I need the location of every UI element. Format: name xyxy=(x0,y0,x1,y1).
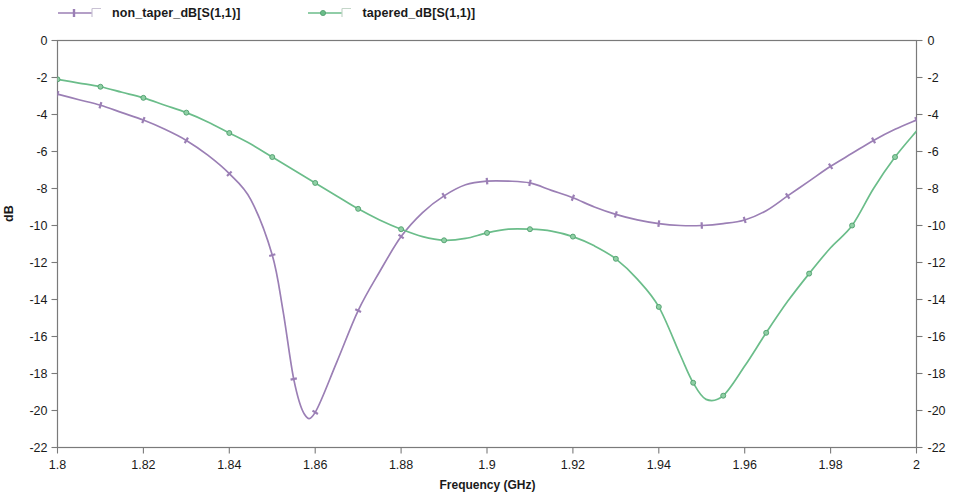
x-tick-label: 1.8 xyxy=(49,458,66,472)
y2-tick-label: -8 xyxy=(928,182,939,196)
series-marker xyxy=(356,206,361,211)
x-tick-label: 1.92 xyxy=(561,458,585,472)
x-tick-label: 1.82 xyxy=(131,458,155,472)
y-tick-label: -12 xyxy=(29,256,47,270)
y2-tick-label: -14 xyxy=(928,293,946,307)
series-marker xyxy=(291,378,297,379)
y2-tick-label: -10 xyxy=(928,219,946,233)
plot-frame xyxy=(58,41,917,448)
y2-tick-label: -16 xyxy=(928,330,946,344)
series-marker xyxy=(141,95,146,100)
series-marker xyxy=(850,223,855,228)
series-marker xyxy=(313,180,318,185)
y2-tick-label: -12 xyxy=(928,256,946,270)
y-tick-label: -14 xyxy=(29,293,47,307)
x-tick-label: 1.98 xyxy=(818,458,842,472)
y2-tick-label: -2 xyxy=(928,71,939,85)
y2-tick-label: -6 xyxy=(928,145,939,159)
series-marker xyxy=(613,256,618,261)
series-marker xyxy=(487,178,488,184)
x-tick-label: 1.96 xyxy=(733,458,757,472)
series-marker xyxy=(691,380,696,385)
series-marker xyxy=(527,227,532,232)
y2-tick-label: 0 xyxy=(928,34,935,48)
series-marker xyxy=(399,227,404,232)
x-tick-label: 1.86 xyxy=(303,458,327,472)
chart-container: non_taper_dB[S(1,1)] tapered_dB[S(1,1)] … xyxy=(0,0,975,497)
y-tick-label: -8 xyxy=(36,182,47,196)
x-tick-label: 1.84 xyxy=(217,458,241,472)
series-marker xyxy=(570,234,575,239)
series-marker xyxy=(807,271,812,276)
y2-tick-label: -4 xyxy=(928,108,939,122)
x-tick-label: 1.94 xyxy=(647,458,671,472)
y-tick-label: -16 xyxy=(29,330,47,344)
plot-area: 00-2-2-4-4-6-6-8-8-10-10-12-12-14-14-16-… xyxy=(0,0,975,497)
series-marker xyxy=(485,230,490,235)
x-tick-label: 1.88 xyxy=(389,458,413,472)
x-tick-label: 1.9 xyxy=(478,458,495,472)
y-tick-label: -2 xyxy=(36,71,47,85)
series-marker xyxy=(656,304,661,309)
series-marker xyxy=(721,393,726,398)
y2-tick-label: -18 xyxy=(928,367,946,381)
series-marker xyxy=(529,180,530,186)
x-tick-label: 2 xyxy=(913,458,920,472)
series-marker xyxy=(270,155,275,160)
y-tick-label: -22 xyxy=(29,441,47,455)
y2-tick-label: -20 xyxy=(928,404,946,418)
series-marker xyxy=(227,131,232,136)
y-tick-label: -4 xyxy=(36,108,47,122)
series-marker xyxy=(184,110,189,115)
series-marker xyxy=(893,155,898,160)
series-marker xyxy=(98,84,103,89)
y2-tick-label: -22 xyxy=(928,441,946,455)
y-tick-label: -20 xyxy=(29,404,47,418)
y-tick-label: -10 xyxy=(29,219,47,233)
y-tick-label: -6 xyxy=(36,145,47,159)
y-tick-label: -18 xyxy=(29,367,47,381)
series-marker xyxy=(442,238,447,243)
y-tick-label: 0 xyxy=(41,34,48,48)
series-marker xyxy=(764,330,769,335)
series-marker xyxy=(658,220,659,226)
